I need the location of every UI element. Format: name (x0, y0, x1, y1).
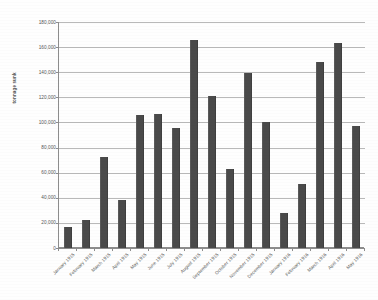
bar (316, 62, 325, 248)
y-tick-label: 180,000 (22, 20, 56, 25)
x-tick-mark (364, 248, 365, 251)
bar-chart: tonnage sunk 180,000160,000140,000120,00… (0, 0, 378, 300)
y-tick-label: 120,000 (22, 95, 56, 100)
x-tick-mark (184, 248, 185, 251)
bar (64, 227, 73, 248)
y-tick-label: 140,000 (22, 70, 56, 75)
y-tick-label: 0 (22, 246, 56, 251)
bar (190, 40, 199, 248)
bar (280, 213, 289, 248)
x-tick-mark (328, 248, 329, 251)
bar (208, 96, 217, 248)
bar (136, 115, 145, 248)
x-tick-mark (220, 248, 221, 251)
bar (226, 169, 235, 248)
bar (100, 157, 109, 248)
y-tick-label: 80,000 (22, 145, 56, 150)
x-tick-mark (274, 248, 275, 251)
x-tick-mark (76, 248, 77, 251)
x-tick-mark (148, 248, 149, 251)
x-tick-mark (202, 248, 203, 251)
bar (262, 122, 271, 248)
x-tick-mark (256, 248, 257, 251)
x-tick-mark (58, 248, 59, 251)
bar (172, 128, 181, 248)
x-tick-mark (238, 248, 239, 251)
y-tick-label: 160,000 (22, 45, 56, 50)
y-tick-label: 40,000 (22, 195, 56, 200)
y-axis-tick-labels: 180,000160,000140,000120,000100,00080,00… (22, 0, 56, 300)
x-tick-mark (346, 248, 347, 251)
bar (118, 200, 127, 248)
x-tick-mark (94, 248, 95, 251)
bar (298, 184, 307, 248)
y-tick-label: 20,000 (22, 220, 56, 225)
plot-area (58, 22, 364, 248)
y-tick-label: 100,000 (22, 120, 56, 125)
x-tick-mark (292, 248, 293, 251)
bars-group (59, 22, 365, 248)
x-tick-mark (130, 248, 131, 251)
bar (154, 114, 163, 248)
x-tick-mark (112, 248, 113, 251)
x-tick-mark (310, 248, 311, 251)
bar (352, 126, 361, 248)
bar (334, 43, 343, 248)
x-axis-tick-labels: January 1915February 1915March 1915April… (58, 252, 378, 300)
bar (244, 73, 253, 248)
y-tick-label: 60,000 (22, 170, 56, 175)
y-axis-title: tonnage sunk (9, 58, 21, 118)
x-tick-mark (166, 248, 167, 251)
bar (82, 220, 91, 248)
